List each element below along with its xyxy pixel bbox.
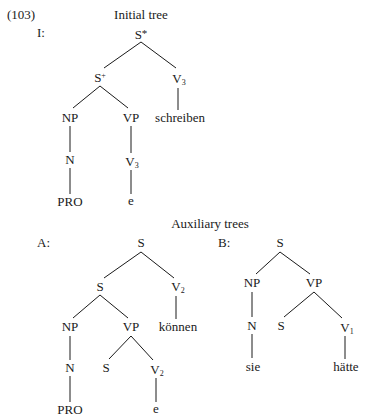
initial-tree-title: Initial tree <box>114 8 168 22</box>
node-np: NP <box>62 111 79 125</box>
node-v3-lower: V3 <box>125 155 138 169</box>
a-node-s: S <box>96 280 103 294</box>
initial-tree-label: I: <box>37 26 45 40</box>
b-node-n: N <box>247 319 256 333</box>
a-node-v2: V2 <box>171 280 184 294</box>
a-node-v2-lower: V2 <box>150 363 163 377</box>
leaf-schreiben: schreiben <box>155 111 205 125</box>
a-node-n: N <box>65 361 74 375</box>
aux-tree-b-label: B: <box>218 236 230 250</box>
a-leaf-pro: PRO <box>57 403 82 417</box>
b-node-vp: VP <box>306 276 323 290</box>
b-node-s-root: S <box>276 236 283 250</box>
b-leaf-sie: sie <box>246 360 260 374</box>
b-node-s-foot: S <box>277 319 284 333</box>
b-node-v1: V1 <box>340 321 353 335</box>
aux-tree-a-label: A: <box>37 236 50 250</box>
node-s-star: S* <box>135 26 148 42</box>
node-n: N <box>65 153 74 167</box>
auxiliary-trees-title: Auxiliary trees <box>171 217 249 231</box>
b-leaf-haette: hätte <box>333 360 358 374</box>
b-node-np: NP <box>244 276 261 290</box>
a-node-np: NP <box>62 320 79 334</box>
example-number: (103) <box>7 8 35 22</box>
a-leaf-koennen: können <box>159 320 197 334</box>
a-node-s-foot: S <box>102 361 109 375</box>
node-v3: V3 <box>172 72 185 86</box>
tree-edges <box>0 0 369 420</box>
a-node-vp: VP <box>123 320 140 334</box>
leaf-pro: PRO <box>57 195 82 209</box>
node-vp: VP <box>123 111 140 125</box>
leaf-e: e <box>128 194 134 208</box>
a-leaf-e: e <box>153 402 159 416</box>
node-s-plus: S+ <box>94 71 106 85</box>
a-node-s-root: S <box>137 236 144 250</box>
